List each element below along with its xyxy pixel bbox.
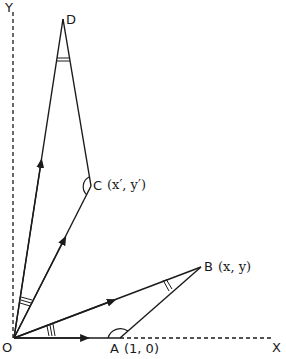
x-axis-label: X bbox=[272, 341, 281, 354]
point-b-label: B bbox=[204, 260, 213, 273]
point-c-label: C bbox=[93, 179, 102, 192]
segment-cd bbox=[63, 19, 91, 186]
point-d-label: D bbox=[66, 13, 76, 26]
point-b-coords: (x, y) bbox=[218, 260, 251, 273]
point-o-label: O bbox=[2, 341, 12, 354]
segment-ob-arrow bbox=[14, 301, 112, 338]
point-a-label: A bbox=[110, 342, 119, 355]
segment-ab bbox=[120, 267, 201, 338]
angle-mark-d-double bbox=[57, 58, 70, 61]
point-a-coords: (1, 0) bbox=[124, 342, 159, 355]
point-c-coords: (x′, y′) bbox=[107, 178, 146, 191]
y-axis-label: Y bbox=[5, 1, 13, 14]
